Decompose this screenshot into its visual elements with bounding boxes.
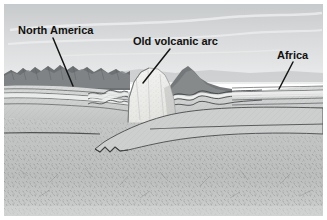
bottom-fade	[4, 206, 323, 216]
label-north-america: North America	[18, 24, 94, 36]
geologic-cross-section-figure: North America Old volcanic arc Africa	[0, 0, 327, 220]
deep-mantle-mottle	[4, 150, 323, 212]
cross-section-canvas: North America Old volcanic arc Africa	[0, 0, 327, 220]
label-africa: Africa	[277, 49, 309, 61]
label-old-volcanic-arc: Old volcanic arc	[133, 35, 218, 47]
